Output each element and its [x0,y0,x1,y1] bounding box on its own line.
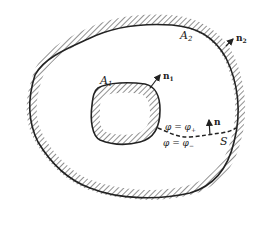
cut-normal-arrow [209,120,210,135]
label-a2: A2 [179,29,193,43]
label-n: n [214,117,221,127]
label-phi-minus: φ = φ− [163,138,194,149]
inner-boundary-a1 [91,83,160,144]
label-n1: n1 [163,71,174,82]
label-n2: n2 [236,33,247,44]
inner-normal-arrow [150,75,160,88]
label-a1: A1 [99,74,112,88]
diagram-figure: A1 A2 n1 n2 n S φ = φ+ φ = φ− [0,0,268,234]
outer-normal-arrow [226,39,233,46]
label-s: S [220,135,228,148]
label-phi-plus: φ = φ+ [165,122,196,133]
